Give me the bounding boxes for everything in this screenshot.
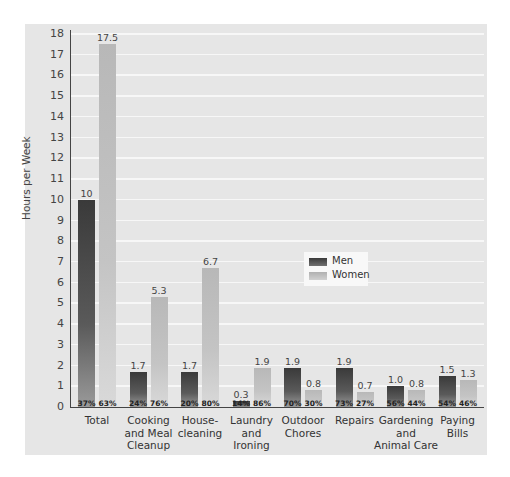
bar-value-label: 1.7 [123, 360, 153, 371]
y-tick-label: 9 [40, 215, 64, 227]
gridline [71, 240, 484, 242]
bar-value-label: 1.7 [175, 360, 205, 371]
y-tick-label: 14 [40, 111, 64, 123]
legend: Men Women [304, 252, 368, 286]
legend-label-women: Women [332, 269, 370, 280]
legend-swatch-women [309, 272, 327, 280]
y-tick-label: 15 [40, 90, 64, 102]
gridline [71, 220, 484, 222]
bar-value-label: 0.8 [402, 378, 432, 389]
y-tick-label: 1 [40, 380, 64, 392]
y-tick-label: 8 [40, 235, 64, 247]
y-tick-label: 5 [40, 297, 64, 309]
y-tick-label: 3 [40, 339, 64, 351]
gridline [71, 33, 484, 35]
gridline [71, 74, 484, 76]
gridline [71, 344, 484, 346]
category-label: Paying Bills [426, 414, 490, 439]
bar-women [151, 297, 168, 407]
y-tick-label: 17 [40, 49, 64, 61]
y-tick-label: 6 [40, 277, 64, 289]
y-tick-label: 4 [40, 318, 64, 330]
gridline [71, 95, 484, 97]
y-tick-label: 18 [40, 28, 64, 40]
gridline [71, 282, 484, 284]
gridline [71, 116, 484, 118]
y-tick-label: 11 [40, 173, 64, 185]
y-tick-label: 13 [40, 132, 64, 144]
bar-men [78, 200, 95, 407]
gridline [71, 178, 484, 180]
bar-value-label: 1.3 [453, 368, 483, 379]
y-axis-line [70, 30, 71, 408]
bar-value-label: 1.9 [278, 356, 308, 367]
gridline [71, 199, 484, 201]
bar-value-label: 10 [72, 188, 102, 199]
bar-value-label: 6.7 [196, 256, 226, 267]
y-tick-label: 16 [40, 69, 64, 81]
bar-value-label: 5.3 [144, 285, 174, 296]
bar-women [99, 44, 116, 407]
y-tick-label: 12 [40, 152, 64, 164]
gridline [71, 261, 484, 263]
y-tick-label: 10 [40, 194, 64, 206]
bar-value-label: 0.8 [299, 378, 329, 389]
bar-value-label: 0.7 [350, 380, 380, 391]
legend-label-men: Men [332, 255, 353, 266]
y-tick-label: 0 [40, 401, 64, 413]
bar-value-label: 1.9 [247, 356, 277, 367]
y-axis-label: Hours per Week [20, 136, 32, 220]
y-tick-label: 2 [40, 360, 64, 372]
y-tick-label: 7 [40, 256, 64, 268]
bar-women [202, 268, 219, 407]
gridline [71, 323, 484, 325]
gridline [71, 137, 484, 139]
gridline [71, 54, 484, 56]
gridline [71, 302, 484, 304]
gridline [71, 157, 484, 159]
bar-value-label: 1.9 [329, 356, 359, 367]
legend-swatch-men [309, 258, 327, 266]
bar-value-label: 17.5 [93, 32, 123, 43]
x-axis-line [70, 407, 484, 408]
